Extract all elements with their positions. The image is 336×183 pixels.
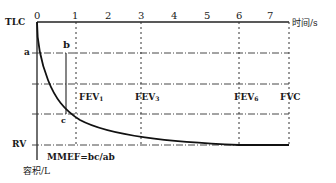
tick-1: 1 — [72, 11, 78, 21]
fev6-label: FEV6 — [234, 93, 258, 102]
tlc-label: TLC — [5, 18, 25, 27]
tick-3: 3 — [138, 11, 144, 21]
b-label: b — [63, 40, 70, 50]
x-axis-label: 时间/s — [292, 19, 318, 28]
tick-6: 6 — [236, 11, 242, 21]
c-label: c — [61, 116, 66, 124]
tick-4: 4 — [171, 11, 177, 21]
y-axis-label: 容积/L — [23, 167, 50, 176]
rv-label: RV — [12, 140, 26, 149]
fvc-label: FVC — [280, 93, 301, 102]
mmef-formula: MMEF=bc/ab — [47, 153, 115, 162]
tick-0: 0 — [34, 11, 40, 21]
volume-time-curve — [37, 22, 289, 145]
fev3-label: FEV3 — [135, 93, 159, 102]
a-label: a — [24, 48, 30, 57]
tick-2: 2 — [105, 11, 111, 21]
tick-5: 5 — [204, 11, 210, 21]
fev1-label: FEV1 — [79, 93, 103, 102]
tick-7: 7 — [267, 11, 273, 21]
